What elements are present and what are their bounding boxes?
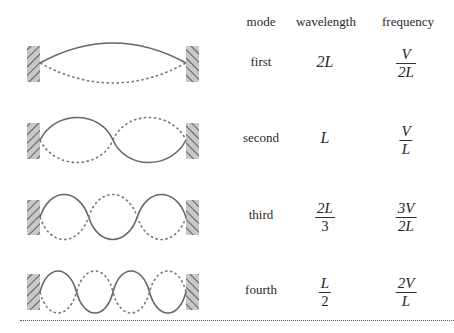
frequency-denominator: L — [400, 141, 412, 158]
wavelength-fourth: L2 — [319, 274, 331, 310]
left-wall-icon — [27, 46, 40, 82]
mode-first-diagram — [27, 43, 199, 83]
frequency-third: 3V2L — [396, 199, 417, 235]
right-wall-icon — [186, 123, 199, 159]
header-mode: mode — [247, 14, 276, 30]
frequency-numerator: V — [399, 46, 412, 63]
mode-fourth-diagram — [27, 271, 199, 313]
wavelength-second: L — [321, 129, 330, 147]
wavelength-denominator: 3 — [320, 218, 331, 235]
right-wall-icon — [186, 46, 199, 82]
string-dashed — [40, 118, 186, 163]
mode-third-diagram — [27, 195, 199, 240]
frequency-denominator: L — [400, 293, 412, 310]
string-solid — [40, 195, 186, 240]
frequency-numerator: V — [399, 123, 412, 140]
frequency-fourth: 2VL — [396, 274, 417, 310]
header-wavelength: wavelength — [296, 14, 356, 30]
frequency-denominator: 2L — [396, 64, 416, 81]
frequency-numerator: 3V — [396, 200, 417, 217]
frequency-numerator: 2V — [396, 275, 417, 292]
frequency-denominator: 2L — [396, 218, 416, 235]
header-frequency: frequency — [382, 14, 434, 30]
left-wall-icon — [27, 123, 40, 159]
wavelength-first: 2L — [317, 53, 334, 71]
string-solid — [40, 43, 186, 63]
mode-second-diagram — [27, 118, 199, 163]
left-wall-icon — [27, 200, 40, 235]
string-dashed — [40, 195, 186, 240]
mode-label-third: third — [249, 207, 274, 223]
bottom-dotted-rule — [20, 320, 454, 321]
frequency-second: VL — [399, 122, 412, 158]
wavelength-denominator: 2 — [320, 293, 331, 310]
mode-label-fourth: fourth — [245, 282, 277, 298]
right-wall-icon — [186, 200, 199, 235]
standing-wave-diagrams — [0, 0, 454, 333]
mode-label-first: first — [251, 54, 272, 70]
right-wall-icon — [186, 274, 199, 310]
left-wall-icon — [27, 274, 40, 310]
wavelength-third: 2L3 — [315, 199, 335, 235]
string-dashed — [40, 63, 186, 83]
mode-label-second: second — [243, 130, 279, 146]
string-solid — [40, 271, 186, 313]
wavelength-numerator: 2L — [315, 200, 335, 217]
frequency-first: V2L — [396, 45, 416, 81]
wavelength-numerator: L — [319, 275, 331, 292]
